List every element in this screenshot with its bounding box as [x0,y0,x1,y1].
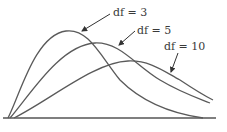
chi-square-chart: df = 3 df = 5 df = 10 [0,0,227,132]
label-df5: df = 5 [137,24,171,37]
label-df3: df = 3 [113,6,147,19]
curve-df10 [14,61,213,118]
label-df10: df = 10 [164,40,205,53]
arrow-df3 [82,14,110,31]
arrow-df10 [171,53,178,72]
arrow-df5 [119,31,135,45]
